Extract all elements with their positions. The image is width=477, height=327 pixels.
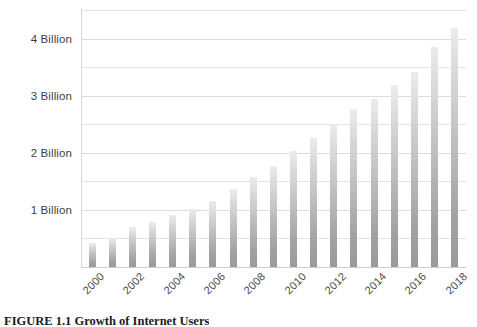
bar bbox=[411, 72, 418, 267]
bar bbox=[149, 222, 156, 267]
bar bbox=[189, 209, 196, 267]
bar bbox=[391, 85, 398, 267]
x-tick-label: 2002 bbox=[120, 270, 146, 296]
bar bbox=[350, 109, 357, 267]
plot-area bbox=[81, 10, 466, 267]
gridline-minor bbox=[81, 67, 466, 68]
x-tick-label: 2016 bbox=[403, 270, 429, 296]
figure-container: 1 Billion2 Billion3 Billion4 Billion 200… bbox=[0, 0, 477, 327]
x-tick-label: 2000 bbox=[80, 270, 106, 296]
x-tick-label: 2008 bbox=[241, 270, 267, 296]
y-tick-label: 1 Billion bbox=[31, 204, 72, 216]
x-tick-label: 2010 bbox=[282, 270, 308, 296]
gridline-minor bbox=[81, 124, 466, 125]
bar bbox=[89, 243, 96, 267]
figure-caption: FIGURE 1.1 Growth of Internet Users bbox=[4, 314, 209, 327]
bar bbox=[290, 151, 297, 267]
y-tick-label: 3 Billion bbox=[31, 90, 72, 102]
bar bbox=[310, 138, 317, 267]
y-tick-label: 4 Billion bbox=[31, 33, 72, 45]
gridline-major bbox=[81, 39, 466, 40]
bar bbox=[371, 99, 378, 267]
x-tick-label: 2006 bbox=[201, 270, 227, 296]
x-tick-label: 2014 bbox=[362, 270, 388, 296]
bar bbox=[451, 28, 458, 267]
bar bbox=[129, 227, 136, 267]
x-axis-labels: 2000200220042006200820102012201420162018 bbox=[0, 270, 477, 315]
bar bbox=[250, 177, 257, 267]
bar bbox=[431, 47, 438, 267]
gridline-major bbox=[81, 96, 466, 97]
y-tick-label: 2 Billion bbox=[31, 147, 72, 159]
bar bbox=[109, 238, 116, 267]
x-tick-label: 2018 bbox=[443, 270, 469, 296]
x-tick-label: 2004 bbox=[161, 270, 187, 296]
bar bbox=[209, 201, 216, 267]
gridline-major bbox=[81, 153, 466, 154]
x-tick-label: 2012 bbox=[322, 270, 348, 296]
bar bbox=[230, 189, 237, 267]
bar bbox=[270, 166, 277, 267]
gridline-minor bbox=[81, 10, 466, 11]
bar bbox=[330, 124, 337, 267]
x-axis-line bbox=[81, 267, 466, 268]
bar bbox=[169, 215, 176, 267]
